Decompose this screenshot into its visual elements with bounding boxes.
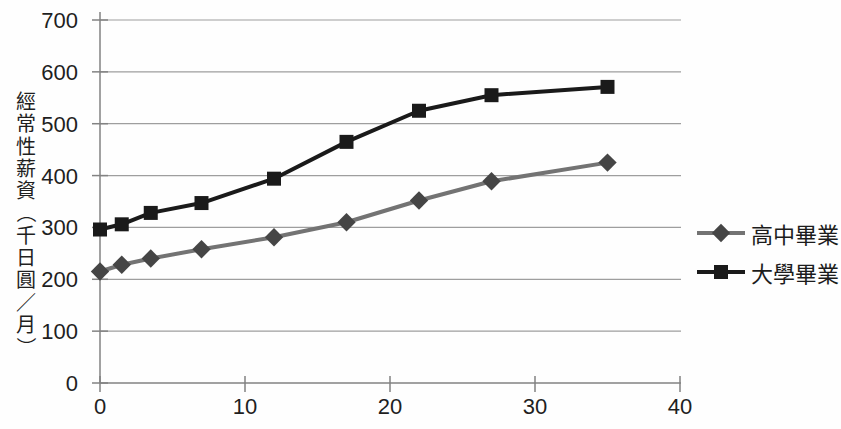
data-point-marker — [142, 249, 160, 267]
legend-marker — [712, 224, 730, 242]
legend-item-university: 大學畢業 — [696, 258, 839, 286]
data-point-marker — [598, 153, 616, 171]
highschool-diamond-marker-icon — [696, 219, 746, 247]
y-tick-label: 700 — [41, 8, 78, 33]
data-point-marker — [144, 206, 158, 220]
y-axis-title-char: 日 — [12, 247, 40, 269]
legend-label-highschool: 高中畢業 — [751, 217, 839, 249]
legend-marker — [714, 265, 728, 279]
data-point-marker — [410, 191, 428, 209]
series-line — [100, 87, 608, 230]
y-axis-title-char: （ — [15, 200, 37, 228]
x-tick-label: 40 — [668, 394, 692, 419]
data-point-marker — [337, 213, 355, 231]
y-tick-label: 100 — [41, 319, 78, 344]
series-university — [93, 80, 615, 237]
x-tick-label: 20 — [378, 394, 402, 419]
data-point-marker — [482, 172, 500, 190]
legend-item-highschool: 高中畢業 — [696, 219, 839, 247]
data-point-marker — [93, 223, 107, 237]
salary-line-chart: 0100200300400500600700010203040 經常性薪資（千日… — [0, 0, 841, 429]
y-tick-label: 400 — [41, 164, 78, 189]
y-axis-title-char: 千 — [12, 225, 40, 247]
data-point-marker — [91, 262, 109, 280]
data-point-marker — [485, 88, 499, 102]
series-highschool — [91, 153, 617, 280]
y-tick-label: 600 — [41, 60, 78, 85]
data-point-marker — [115, 217, 129, 231]
data-point-marker — [113, 256, 131, 274]
y-axis-title-char: 薪 — [12, 158, 40, 180]
y-axis-title-char: 圓 — [12, 269, 40, 291]
y-tick-label: 200 — [41, 267, 78, 292]
x-tick-label: 0 — [94, 394, 106, 419]
x-tick-label: 30 — [523, 394, 547, 419]
data-point-marker — [340, 135, 354, 149]
data-point-marker — [265, 228, 283, 246]
data-point-marker — [267, 172, 281, 186]
y-tick-label: 0 — [66, 371, 78, 396]
y-tick-label: 500 — [41, 112, 78, 137]
y-axis-title-char: 性 — [12, 136, 40, 158]
y-axis-title: 經常性薪資（千日圓／月） — [12, 91, 40, 359]
x-tick-label: 10 — [233, 394, 257, 419]
data-point-marker — [192, 240, 210, 258]
university-square-marker-icon — [696, 258, 746, 286]
data-point-marker — [601, 80, 615, 94]
data-point-marker — [412, 104, 426, 118]
legend-label-university: 大學畢業 — [751, 256, 839, 288]
y-axis-title-char: 常 — [12, 113, 40, 135]
y-axis-title-char: 經 — [12, 91, 40, 113]
data-point-marker — [195, 196, 209, 210]
legend: 高中畢業 大學畢業 — [696, 0, 841, 429]
series-line — [100, 163, 608, 272]
y-axis-title-char: ／ — [12, 292, 40, 314]
y-axis-title-char: ） — [15, 333, 37, 361]
y-tick-label: 300 — [41, 215, 78, 240]
